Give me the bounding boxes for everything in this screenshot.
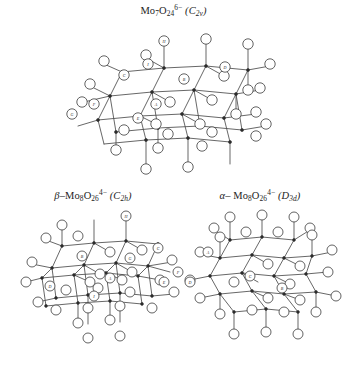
point-group-subscript: 3d (289, 194, 297, 203)
atom-label-group-e: E (159, 277, 169, 287)
formula-charge: 4− (267, 188, 275, 197)
oxygen-spheres-mo7 (77, 34, 275, 174)
atom-text-d: D (188, 280, 192, 285)
oxygen-spheres-alpha (185, 210, 341, 339)
atom-text-d: D (48, 284, 52, 289)
formula-element-mo: Mo (140, 5, 155, 16)
structure-mo7o24-drawing: H I D C B (60, 24, 292, 184)
atom-text-c: C (157, 246, 160, 251)
atom-label-group-d: D (185, 277, 195, 287)
formula-subscript-26: 26 (91, 194, 99, 203)
formula-mo7o24: Mo7O246− (C2v) (0, 4, 347, 17)
atom-text-c: C (249, 274, 252, 279)
atom-label-group-h: H (159, 36, 169, 46)
formula-element-mo: Mo (65, 190, 80, 201)
atom-text-a: A (154, 102, 158, 107)
atom-label-group-f: F (89, 99, 99, 109)
atom-label-group-b: B (179, 74, 189, 84)
atom-text-c: C (123, 73, 126, 78)
formula-element-mo: Mo (233, 190, 248, 201)
point-group-subscript: 2h (120, 194, 128, 203)
atom-label-group-d: D (45, 281, 55, 291)
atom-label-group-g: G (125, 253, 135, 263)
formula-subscript-26: 26 (260, 194, 268, 203)
structure-mo7o24: H I D C B (60, 24, 292, 184)
atom-text-e: E (136, 116, 140, 121)
atom-label-group-f: F (173, 267, 183, 277)
structure-beta-mo8o26-drawing: H C B G F (26, 206, 186, 348)
point-group-subscript: 2v (196, 9, 203, 18)
point-group-symbol: C (189, 5, 196, 16)
atom-label-group-b: B (77, 251, 87, 261)
formula-alpha-mo8o26: α– Mo8O264− (D3d) (176, 189, 344, 202)
structure-beta-mo8o26: H C B G F (26, 206, 186, 348)
atom-text-g: G (129, 256, 132, 261)
atom-text-g: G (71, 112, 74, 117)
formula-beta-mo8o26: β–Mo8O264− (C2h) (8, 189, 178, 202)
atom-label-group-d: D (220, 62, 230, 72)
atom-label-group-c: C (119, 70, 129, 80)
atom-label-group-a: A (105, 273, 115, 283)
atom-label-group-a: A (203, 247, 213, 257)
formula-dash: – (225, 190, 230, 201)
point-group-close: ) (203, 5, 207, 16)
atom-label-group-i: I (89, 291, 99, 301)
atom-label-group-g: G (67, 109, 77, 119)
figure-root: Mo7O246− (C2v) (0, 0, 347, 365)
formula-charge: 6− (174, 3, 182, 12)
structure-alpha-mo8o26: A D C B (186, 206, 346, 348)
atom-text-a: A (206, 250, 210, 255)
atom-label-group-e: E (133, 113, 143, 123)
atom-text-a: A (108, 276, 112, 281)
formula-charge: 4− (99, 188, 107, 197)
atom-text-e: E (162, 280, 166, 285)
atom-label-group-i: I (143, 59, 153, 69)
atom-label-group-b: B (277, 283, 287, 293)
point-group-close: ) (128, 190, 132, 201)
point-group-close: ) (297, 190, 301, 201)
atom-label-group-a: A (151, 99, 161, 109)
atom-label-group-h: H (121, 211, 131, 221)
atom-label-group-c: C (153, 243, 163, 253)
atom-text-f: F (92, 102, 96, 107)
structure-alpha-mo8o26-drawing: A D C B (186, 206, 346, 348)
atom-label-group-c: C (245, 271, 255, 281)
atom-text-d: D (223, 65, 227, 70)
atom-text-f: F (176, 270, 180, 275)
formula-element-o: O (159, 5, 167, 16)
oxygen-spheres-beta (21, 220, 179, 343)
formula-element-o: O (252, 190, 260, 201)
